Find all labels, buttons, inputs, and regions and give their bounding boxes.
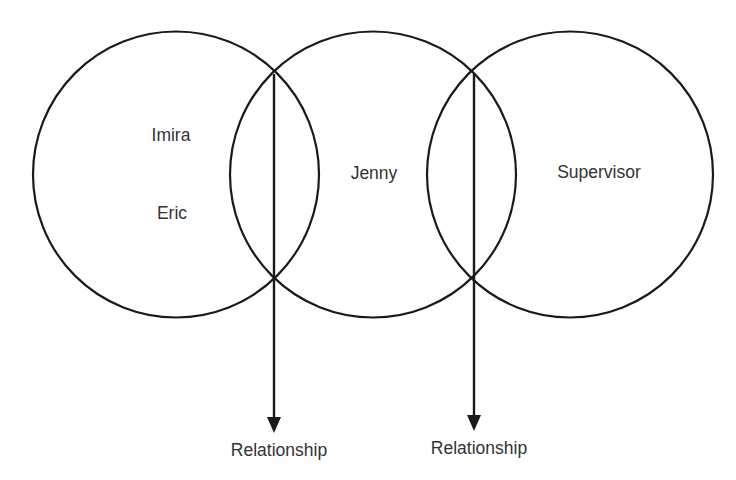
label-eric: Eric <box>157 203 187 223</box>
label-supervisor: Supervisor <box>557 162 641 182</box>
label-jenny: Jenny <box>351 163 398 183</box>
relationship-label-1: Relationship <box>231 440 327 460</box>
circle-left <box>33 32 319 318</box>
relationship-label-2: Relationship <box>431 438 527 458</box>
arrow-down-icon <box>267 417 281 433</box>
relationship-arrow-2 <box>467 74 481 431</box>
arrow-down-icon <box>467 415 481 431</box>
relationship-diagram: Imira Eric Jenny Supervisor Relationship… <box>0 0 736 480</box>
relationship-arrow-1 <box>267 74 281 433</box>
label-imira: Imira <box>152 125 191 145</box>
